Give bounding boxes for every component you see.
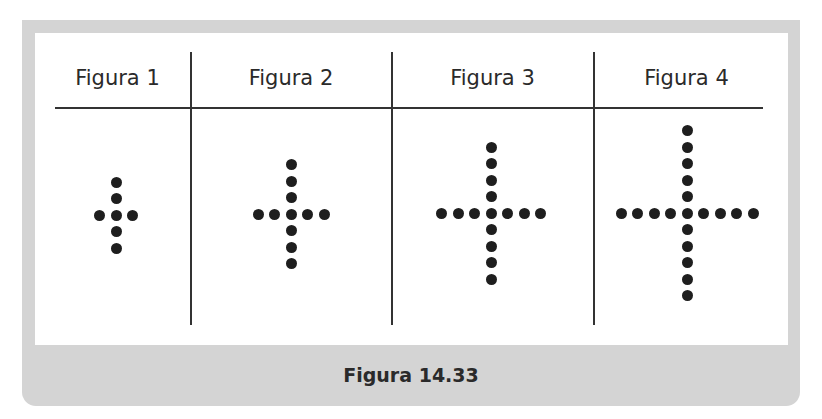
figure-caption: Figura 14.33 xyxy=(22,360,800,390)
dot xyxy=(682,274,693,285)
dot xyxy=(469,208,480,219)
dot xyxy=(269,209,280,220)
dot xyxy=(94,210,105,221)
dot xyxy=(486,257,497,268)
dot xyxy=(486,241,497,252)
dot xyxy=(486,208,497,219)
dot xyxy=(286,225,297,236)
dot xyxy=(698,208,709,219)
dot xyxy=(682,224,693,235)
dot xyxy=(286,176,297,187)
dot xyxy=(436,208,447,219)
dot xyxy=(519,208,530,219)
dot xyxy=(127,210,138,221)
dot xyxy=(486,191,497,202)
dot xyxy=(286,159,297,170)
header-figura-2: Figura 2 xyxy=(191,58,391,98)
dot xyxy=(665,208,676,219)
dot xyxy=(682,175,693,186)
dot xyxy=(111,210,122,221)
dot xyxy=(453,208,464,219)
header-divider xyxy=(55,107,763,109)
header-figura-3: Figura 3 xyxy=(392,58,593,98)
dot xyxy=(616,208,627,219)
dot xyxy=(682,125,693,136)
dot xyxy=(682,191,693,202)
dot xyxy=(682,158,693,169)
dot xyxy=(649,208,660,219)
dot xyxy=(486,158,497,169)
header-figura-4: Figura 4 xyxy=(594,58,779,98)
dot xyxy=(253,209,264,220)
dot xyxy=(286,258,297,269)
dot xyxy=(286,192,297,203)
dot xyxy=(682,208,693,219)
dot xyxy=(535,208,546,219)
dot xyxy=(748,208,759,219)
dot xyxy=(632,208,643,219)
dot xyxy=(302,209,313,220)
dot xyxy=(111,193,122,204)
dot xyxy=(731,208,742,219)
dot xyxy=(111,177,122,188)
dot xyxy=(286,242,297,253)
header-figura-1: Figura 1 xyxy=(45,58,190,98)
dot xyxy=(715,208,726,219)
dot xyxy=(682,257,693,268)
dot xyxy=(286,209,297,220)
dot xyxy=(111,226,122,237)
dot xyxy=(319,209,330,220)
dot xyxy=(486,274,497,285)
dot xyxy=(486,175,497,186)
dot xyxy=(486,224,497,235)
dot xyxy=(682,290,693,301)
dot xyxy=(111,243,122,254)
dot xyxy=(682,241,693,252)
dot xyxy=(502,208,513,219)
dot xyxy=(682,142,693,153)
dot xyxy=(486,142,497,153)
